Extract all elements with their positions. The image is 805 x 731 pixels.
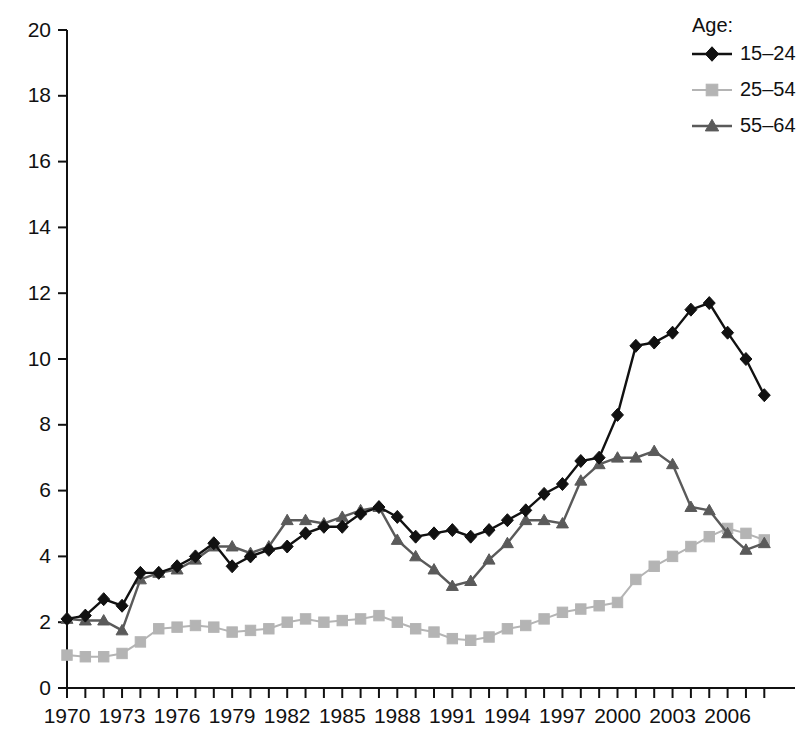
x-axis-tick-label: 1985 xyxy=(319,704,366,727)
data-point-marker xyxy=(557,607,567,617)
data-point-marker xyxy=(190,620,200,630)
legend-title: Age: xyxy=(692,14,733,36)
chart-container: 0246810121416182019701973197619791982198… xyxy=(0,0,805,731)
data-point-marker xyxy=(483,524,495,537)
data-point-marker xyxy=(80,652,90,662)
data-point-marker xyxy=(209,622,219,632)
data-point-marker xyxy=(263,543,275,556)
data-point-marker xyxy=(706,84,718,96)
data-point-marker xyxy=(245,625,255,635)
data-point-marker xyxy=(594,601,604,611)
data-point-marker xyxy=(631,574,641,584)
x-axis-tick-label: 1973 xyxy=(99,704,146,727)
x-axis-tick-label: 2003 xyxy=(649,704,696,727)
legend-entry-15-24[interactable]: 15–24 xyxy=(692,42,796,64)
y-axis-tick-label: 16 xyxy=(28,149,51,172)
y-axis-tick-label: 18 xyxy=(28,83,51,106)
legend-entry-25-54[interactable]: 25–54 xyxy=(692,78,796,100)
legend-label-55-64: 55–64 xyxy=(740,114,796,136)
series-15-24 xyxy=(61,297,770,626)
x-axis-tick-label: 1976 xyxy=(154,704,201,727)
x-axis-tick-label: 1979 xyxy=(209,704,256,727)
y-axis-tick-label: 8 xyxy=(39,412,51,435)
data-point-marker xyxy=(319,617,329,627)
data-point-marker xyxy=(116,624,128,634)
data-point-marker xyxy=(355,614,365,624)
x-axis-tick-label: 2000 xyxy=(594,704,641,727)
data-point-marker xyxy=(428,527,440,540)
data-point-marker xyxy=(667,551,677,561)
data-point-marker xyxy=(648,445,660,455)
data-point-marker xyxy=(337,615,347,625)
data-point-marker xyxy=(227,627,237,637)
data-point-marker xyxy=(300,614,310,624)
data-point-marker xyxy=(154,624,164,634)
x-axis-tick-label: 1997 xyxy=(539,704,586,727)
data-point-marker xyxy=(576,604,586,614)
data-point-marker xyxy=(135,637,145,647)
data-point-marker xyxy=(410,624,420,634)
y-axis-tick-label: 2 xyxy=(39,610,51,633)
data-point-marker xyxy=(392,617,402,627)
data-point-marker xyxy=(447,633,457,643)
x-axis-tick-label: 1988 xyxy=(374,704,421,727)
data-point-marker xyxy=(704,531,714,541)
y-axis-tick-label: 4 xyxy=(39,544,51,567)
data-point-marker xyxy=(465,530,477,543)
data-point-marker xyxy=(741,528,751,538)
y-axis-tick-label: 6 xyxy=(39,478,51,501)
data-point-marker xyxy=(336,520,348,533)
data-point-marker xyxy=(630,339,642,352)
data-point-marker xyxy=(116,599,128,612)
line-chart: 0246810121416182019701973197619791982198… xyxy=(0,0,805,731)
data-point-marker xyxy=(502,624,512,634)
legend-label-25-54: 25–54 xyxy=(740,78,796,100)
data-point-marker xyxy=(99,652,109,662)
data-point-marker xyxy=(484,632,494,642)
data-point-marker xyxy=(374,610,384,620)
data-point-marker xyxy=(612,408,624,421)
y-axis-tick-label: 12 xyxy=(28,281,51,304)
data-point-marker xyxy=(300,527,312,540)
data-point-marker xyxy=(501,514,513,527)
x-axis-tick-label: 1982 xyxy=(264,704,311,727)
y-axis-tick-label: 14 xyxy=(28,215,52,238)
legend-label-15-24: 15–24 xyxy=(740,42,796,64)
x-axis-tick-label: 1991 xyxy=(429,704,476,727)
data-point-marker xyxy=(117,648,127,658)
data-point-marker xyxy=(705,47,718,62)
data-point-marker xyxy=(686,541,696,551)
data-point-marker xyxy=(612,597,622,607)
data-point-marker xyxy=(282,617,292,627)
data-point-marker xyxy=(172,622,182,632)
data-point-marker xyxy=(685,501,697,511)
data-point-marker xyxy=(429,627,439,637)
legend-entry-55-64[interactable]: 55–64 xyxy=(692,114,796,136)
data-point-marker xyxy=(521,620,531,630)
data-point-marker xyxy=(466,635,476,645)
x-axis-tick-label: 1994 xyxy=(484,704,531,727)
y-axis-tick-label: 10 xyxy=(28,347,51,370)
data-point-marker xyxy=(446,524,458,537)
y-axis-tick-label: 20 xyxy=(28,18,51,41)
data-point-marker xyxy=(264,624,274,634)
data-point-marker xyxy=(649,561,659,571)
data-point-marker xyxy=(648,336,660,349)
data-point-marker xyxy=(62,650,72,660)
data-point-marker xyxy=(539,614,549,624)
series-line-25-54 xyxy=(67,528,764,656)
data-point-marker xyxy=(281,540,293,553)
data-point-marker xyxy=(391,534,403,544)
y-axis-tick-label: 0 xyxy=(39,676,51,699)
x-axis-tick-label: 2006 xyxy=(704,704,751,727)
data-point-marker xyxy=(758,389,770,402)
x-axis-tick-label: 1970 xyxy=(44,704,91,727)
series-25-54 xyxy=(62,523,770,662)
